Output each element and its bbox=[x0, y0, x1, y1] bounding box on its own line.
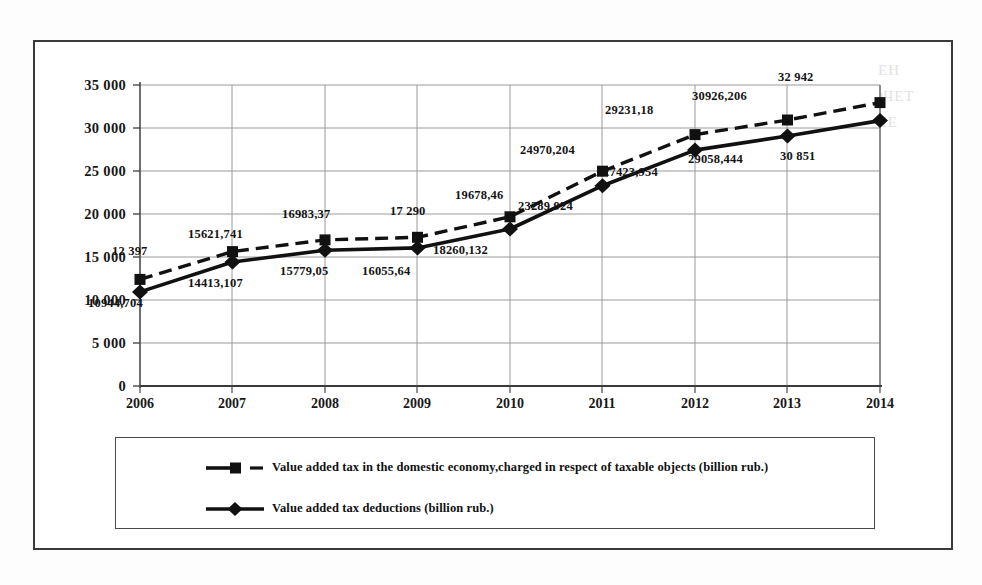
x-axis-tick-label: 2012 bbox=[665, 396, 725, 412]
x-axis-tick-label: 2007 bbox=[202, 396, 262, 412]
data-label-deductions: 18260,132 bbox=[433, 243, 488, 258]
data-label-deductions: 30 851 bbox=[780, 149, 816, 164]
y-axis-tick-label: 0 bbox=[52, 378, 126, 395]
x-axis-tick-label: 2014 bbox=[850, 396, 910, 412]
legend-key-solid-diamond-icon bbox=[206, 502, 272, 516]
data-label-deductions: 16055,64 bbox=[362, 264, 410, 279]
x-axis-tick-label: 2009 bbox=[387, 396, 447, 412]
x-axis-ticks bbox=[140, 386, 880, 393]
data-label-deductions: 29058,444 bbox=[688, 152, 743, 167]
data-label-charged: 16983,37 bbox=[282, 207, 330, 222]
x-axis-tick-label: 2010 bbox=[480, 396, 540, 412]
x-axis-tick-label: 2013 bbox=[757, 396, 817, 412]
x-axis-tick-label: 2011 bbox=[572, 396, 632, 412]
y-axis-tick-label: 20 000 bbox=[52, 206, 126, 223]
data-label-charged: 32 942 bbox=[778, 70, 814, 85]
y-axis-tick-label: 35 000 bbox=[52, 77, 126, 94]
data-label-deductions: 27423,954 bbox=[603, 165, 658, 180]
data-label-charged: 29231,18 bbox=[605, 103, 653, 118]
data-label-deductions: 15779,05 bbox=[280, 264, 328, 279]
y-axis-tick-label: 25 000 bbox=[52, 163, 126, 180]
legend-item-charged: Value added tax in the domestic economy,… bbox=[206, 460, 768, 475]
data-label-charged: 19678,46 bbox=[455, 188, 503, 203]
data-label-charged: 30926,206 bbox=[692, 89, 747, 104]
legend-label: Value added tax in the domestic economy,… bbox=[272, 460, 768, 475]
x-axis-tick-label: 2008 bbox=[295, 396, 355, 412]
legend-item-deductions: Value added tax deductions (billion rub.… bbox=[206, 501, 494, 516]
data-label-deductions: 23289,924 bbox=[518, 199, 573, 214]
y-axis-tick-label: 30 000 bbox=[52, 120, 126, 137]
data-label-charged: 24970,204 bbox=[520, 143, 575, 158]
chart-legend: Value added tax in the domestic economy,… bbox=[115, 437, 875, 529]
data-label-charged: 15621,741 bbox=[188, 227, 243, 242]
y-axis-tick-label: 5 000 bbox=[52, 335, 126, 352]
legend-key-dashed-square-icon bbox=[206, 461, 272, 475]
data-label-charged: 12 397 bbox=[112, 244, 148, 259]
data-label-deductions: 14413,107 bbox=[188, 276, 243, 291]
data-label-charged: 17 290 bbox=[390, 204, 426, 219]
y-axis-ticks bbox=[133, 85, 140, 386]
chart-container: 35 000 30 000 25 000 20 000 15 000 10 00… bbox=[0, 0, 982, 585]
x-axis-tick-label: 2006 bbox=[110, 396, 170, 412]
data-label-deductions: 10944,704 bbox=[88, 296, 143, 311]
legend-label: Value added tax deductions (billion rub.… bbox=[272, 501, 494, 516]
